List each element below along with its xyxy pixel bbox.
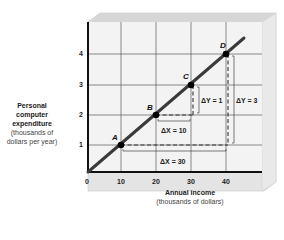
y-axis-label-line-2: computer: [0, 110, 64, 119]
annotation-dy3: ΔY = 3: [236, 97, 258, 104]
point-label-c: C: [183, 72, 189, 81]
y-axis-label-line-3: expenditure: [0, 119, 64, 128]
point-c: [188, 82, 195, 89]
point-label-a: A: [111, 133, 118, 142]
y-tick-3: 3: [79, 81, 83, 88]
point-a: [118, 142, 125, 149]
annotation-dx30: ΔX = 30: [160, 158, 186, 165]
annotation-dy1: ΔY = 1: [201, 97, 223, 104]
y-tick-4: 4: [79, 50, 83, 57]
y-axis-label: Personal computer expenditure (thousands…: [0, 101, 64, 146]
y-tick-1: 1: [79, 141, 83, 148]
x-tick-40: 40: [222, 178, 230, 185]
x-axis-unit: (thousands of dollars): [120, 197, 260, 206]
x-axis-title: Annual income: [120, 188, 260, 197]
x-tick-20: 20: [152, 178, 160, 185]
x-tick-30: 30: [187, 178, 195, 185]
x-axis-label: Annual income (thousands of dollars): [120, 188, 260, 206]
y-tick-2: 2: [79, 111, 83, 118]
point-b: [153, 112, 160, 119]
y-axis-label-line-1: Personal: [0, 101, 64, 110]
y-axis-unit-line-1: (thousands of: [0, 128, 64, 137]
point-d: [223, 51, 230, 58]
x-tick-10: 10: [117, 178, 125, 185]
annotation-dx10: ΔX = 10: [161, 127, 187, 134]
point-label-b: B: [147, 103, 153, 112]
y-axis-unit-line-2: dollars per year): [0, 137, 64, 146]
x-tick-0: 0: [85, 178, 89, 185]
point-label-d: D: [220, 41, 226, 50]
